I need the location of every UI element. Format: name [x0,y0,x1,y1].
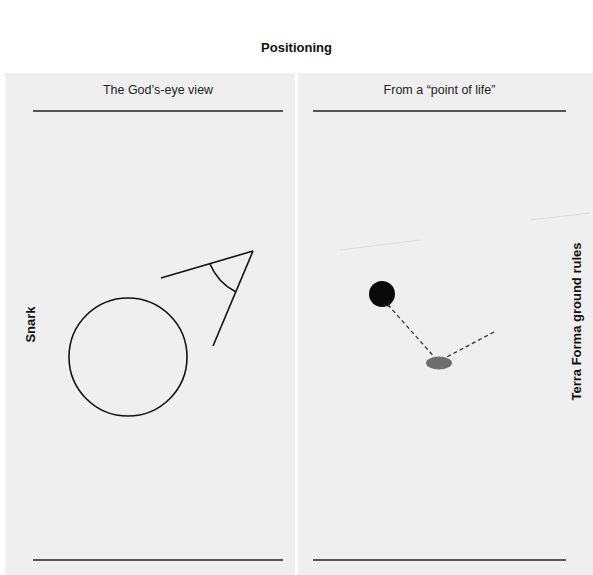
diagram-canvas [0,0,593,575]
observer-ellipse-icon [426,357,452,370]
fold-line [340,240,420,250]
target-dot-icon [369,281,395,307]
fold-line [530,213,590,220]
globe-circle-icon [69,298,187,416]
sight-line [441,331,496,360]
view-angle-icon [161,251,253,346]
sight-line-arrow [389,306,437,360]
